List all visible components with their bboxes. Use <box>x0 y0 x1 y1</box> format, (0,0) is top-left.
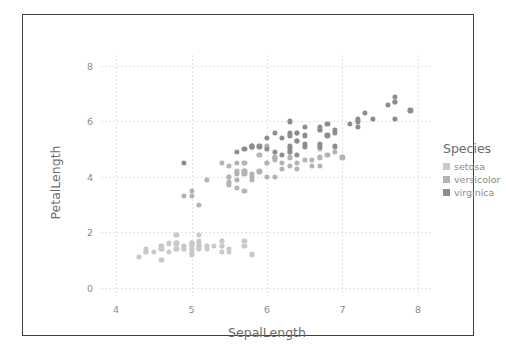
data-point-versicolor <box>227 163 232 168</box>
legend-item-virginica[interactable]: virginica <box>443 187 506 198</box>
data-point-virginica <box>181 160 186 165</box>
data-point-setosa <box>219 238 224 243</box>
gridline-vertical <box>192 55 193 296</box>
gridline-vertical <box>418 55 419 296</box>
x-tick-label: 7 <box>339 304 345 315</box>
data-point-versicolor <box>242 160 247 165</box>
data-point-setosa <box>212 244 217 249</box>
data-point-versicolor <box>287 155 292 160</box>
data-point-setosa <box>136 255 141 260</box>
data-point-setosa <box>151 249 156 254</box>
data-point-virginica <box>272 149 277 154</box>
data-point-virginica <box>257 144 262 149</box>
y-tick-label: 4 <box>75 171 93 182</box>
data-point-versicolor <box>189 188 194 193</box>
data-point-setosa <box>242 238 247 243</box>
legend-item-label: virginica <box>454 187 494 198</box>
data-point-virginica <box>242 147 247 152</box>
data-point-versicolor <box>257 152 262 157</box>
legend-item-label: versicolor <box>454 174 500 185</box>
data-point-versicolor <box>317 155 322 160</box>
data-point-setosa <box>227 249 232 254</box>
data-point-versicolor <box>310 158 315 163</box>
legend-swatch-icon <box>443 163 450 170</box>
data-point-virginica <box>355 119 360 124</box>
data-point-virginica <box>332 130 337 135</box>
data-point-setosa <box>242 244 247 249</box>
data-point-virginica <box>295 138 300 143</box>
data-point-virginica <box>287 133 292 138</box>
data-point-virginica <box>408 108 413 113</box>
data-point-virginica <box>362 111 367 116</box>
data-point-virginica <box>385 102 390 107</box>
data-point-versicolor <box>189 194 194 199</box>
data-point-setosa <box>159 246 164 251</box>
data-point-virginica <box>234 149 239 154</box>
data-point-versicolor <box>279 166 284 171</box>
y-tick-label: 6 <box>75 116 93 127</box>
data-point-virginica <box>393 94 398 99</box>
x-tick-label: 5 <box>189 304 195 315</box>
data-point-virginica <box>295 130 300 135</box>
data-point-setosa <box>196 232 201 237</box>
y-tick-label: 8 <box>75 61 93 72</box>
data-point-versicolor <box>332 149 337 154</box>
data-point-versicolor <box>287 163 292 168</box>
legend-swatch-icon <box>443 189 450 196</box>
data-point-virginica <box>249 144 254 149</box>
data-point-versicolor <box>234 177 239 182</box>
data-point-versicolor <box>295 160 300 165</box>
data-point-versicolor <box>242 188 247 193</box>
data-point-versicolor <box>196 202 201 207</box>
data-point-virginica <box>302 124 307 129</box>
data-point-versicolor <box>227 183 232 188</box>
legend-item-setosa[interactable]: setosa <box>443 161 506 172</box>
data-point-virginica <box>325 122 330 127</box>
x-axis-title: SepalLength <box>101 325 433 340</box>
data-point-versicolor <box>257 169 262 174</box>
data-point-virginica <box>279 152 284 157</box>
data-point-setosa <box>249 252 254 257</box>
legend-item-label: setosa <box>454 161 485 172</box>
x-tick-label: 6 <box>264 304 270 315</box>
data-point-versicolor <box>279 160 284 165</box>
data-point-versicolor <box>302 158 307 163</box>
data-point-versicolor <box>227 174 232 179</box>
data-point-versicolor <box>325 152 330 157</box>
legend: Species setosaversicolorvirginica <box>443 141 506 200</box>
data-point-virginica <box>325 133 330 138</box>
data-point-versicolor <box>295 166 300 171</box>
data-point-versicolor <box>317 163 322 168</box>
data-point-setosa <box>181 246 186 251</box>
y-tick-label: 2 <box>75 227 93 238</box>
data-point-versicolor <box>234 185 239 190</box>
data-point-versicolor <box>234 160 239 165</box>
data-point-virginica <box>287 119 292 124</box>
data-point-versicolor <box>340 155 345 160</box>
data-point-setosa <box>166 241 171 246</box>
data-point-setosa <box>174 246 179 251</box>
data-point-virginica <box>347 122 352 127</box>
plot-area <box>101 55 433 296</box>
x-tick-label: 4 <box>113 304 119 315</box>
data-point-setosa <box>219 249 224 254</box>
figure-frame: 45678 02468 SepalLength PetalLength Spec… <box>22 14 474 336</box>
data-point-virginica <box>279 136 284 141</box>
data-point-virginica <box>317 127 322 132</box>
data-point-versicolor <box>264 174 269 179</box>
legend-items: setosaversicolorvirginica <box>443 161 506 198</box>
data-point-virginica <box>393 99 398 104</box>
x-tick-label: 8 <box>415 304 421 315</box>
legend-swatch-icon <box>443 176 450 183</box>
data-point-versicolor <box>310 163 315 168</box>
data-point-versicolor <box>264 160 269 165</box>
data-point-setosa <box>159 257 164 262</box>
data-point-virginica <box>355 124 360 129</box>
gridline-vertical <box>342 55 343 296</box>
data-point-virginica <box>332 144 337 149</box>
data-point-virginica <box>302 133 307 138</box>
legend-item-versicolor[interactable]: versicolor <box>443 174 506 185</box>
data-point-setosa <box>166 249 171 254</box>
data-point-virginica <box>264 136 269 141</box>
data-point-virginica <box>264 147 269 152</box>
